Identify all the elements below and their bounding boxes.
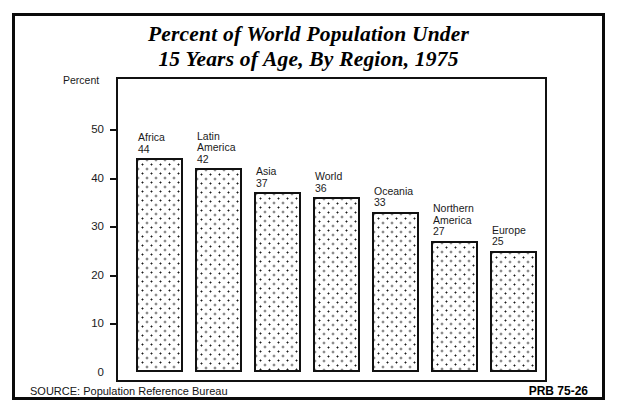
bar-label-name: America [197, 142, 236, 154]
bar-value: 37 [256, 178, 276, 190]
bar [313, 197, 360, 372]
y-axis-tick-label: 10 [68, 318, 104, 328]
bar [372, 212, 419, 372]
y-axis-tick-label: 40 [68, 173, 104, 183]
bar-value: 27 [433, 226, 474, 238]
plot-area: Africa44LatinAmerica42Asia37World36Ocean… [116, 77, 547, 382]
y-axis-caption: Percent [63, 74, 99, 86]
source-note: SOURCE: Population Reference Bureau [30, 385, 228, 397]
bar-value: 44 [138, 144, 165, 156]
y-axis-tick-label: 30 [68, 221, 104, 231]
bar-value: 25 [492, 236, 526, 248]
bar-label: Africa44 [138, 132, 165, 155]
bar-label: Asia37 [256, 166, 276, 189]
bar-label-name: World [315, 171, 342, 183]
bar-label: Oceania33 [374, 186, 413, 209]
bar-value: 36 [315, 183, 342, 195]
page-title: Percent of World Population Under 15 Yea… [15, 22, 602, 72]
publication-code: PRB 75-26 [529, 384, 588, 398]
bar [490, 251, 537, 372]
y-axis-tick-label: 50 [68, 124, 104, 134]
bar-label: NorthernAmerica27 [433, 203, 474, 238]
bar-value: 33 [374, 197, 413, 209]
title-line-2: 15 Years of Age, By Region, 1975 [15, 47, 602, 72]
y-axis-tick-label: 0 [68, 367, 104, 377]
bar [195, 168, 242, 372]
bar [431, 241, 478, 372]
bars-layer: Africa44LatinAmerica42Asia37World36Ocean… [118, 79, 545, 380]
y-axis-tick-label: 20 [68, 270, 104, 280]
bar-label: LatinAmerica42 [197, 131, 236, 166]
bar-label: World36 [315, 171, 342, 194]
title-line-1: Percent of World Population Under [15, 22, 602, 47]
chart-poster: Percent of World Population Under 15 Yea… [12, 13, 605, 400]
bar-value: 42 [197, 154, 236, 166]
bar [136, 158, 183, 372]
bar-label: Europe25 [492, 225, 526, 248]
bar [254, 192, 301, 372]
